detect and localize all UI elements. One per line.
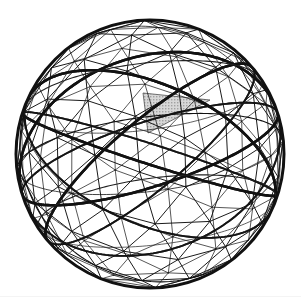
latitude-rings: [24, 61, 276, 248]
figure-root: [0, 0, 301, 303]
sphere-outline: [16, 20, 284, 288]
mesh-chord-lines: [17, 20, 283, 287]
great-circle-arcs: [17, 26, 283, 282]
geodesic-sphere-svg: [0, 0, 301, 303]
bottom-scanline: [0, 296, 301, 297]
